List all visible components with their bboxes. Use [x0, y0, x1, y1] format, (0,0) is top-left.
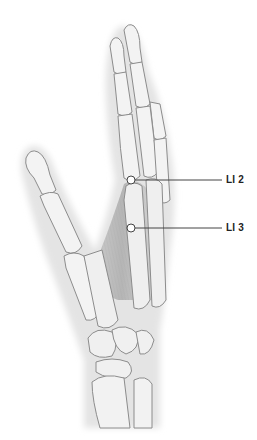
- point-marker-li2: [127, 176, 135, 184]
- point-marker-li3: [127, 224, 135, 232]
- point-label-li3: LI 3: [226, 222, 244, 234]
- forearm-bones: [92, 376, 152, 428]
- hand-anatomy-illustration: LI 2 LI 3: [0, 0, 257, 440]
- point-label-li2: LI 2: [226, 174, 244, 186]
